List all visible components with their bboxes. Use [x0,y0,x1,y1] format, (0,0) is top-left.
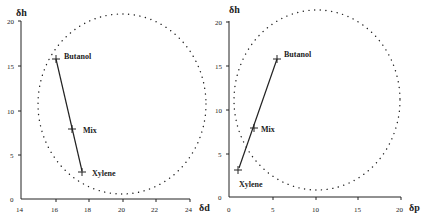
left-mix-label: Mix [83,126,97,135]
right-mix-label: Mix [261,125,275,134]
svg-text:0: 0 [227,206,231,214]
svg-text:0: 0 [218,194,222,202]
left-x-label: δd [199,202,210,213]
svg-text:18: 18 [84,206,92,214]
right-xylene-label: Xylene [239,180,263,189]
svg-text:10: 10 [7,108,15,116]
right-x-label: δp [409,202,420,213]
left-x-ticks: 141618202224 [16,206,193,214]
svg-text:10: 10 [215,107,223,115]
right-y-label: δh [229,4,240,15]
svg-text:14: 14 [16,206,24,214]
right-chart: 20151050 05101520 δh δp Butanol Mix Xyle… [215,4,420,214]
svg-text:24: 24 [185,206,193,214]
svg-text:20: 20 [7,18,15,26]
svg-text:20: 20 [215,19,223,27]
svg-text:0: 0 [10,196,14,204]
right-y-ticks: 20151050 [215,19,223,202]
left-chart: 20151050 141618202224 δh δd Butanol Mix … [7,7,210,214]
left-butanol-label: Butanol [64,52,92,61]
svg-text:15: 15 [7,63,15,71]
svg-text:20: 20 [396,206,404,214]
svg-text:5: 5 [271,206,275,214]
left-y-ticks: 20151050 [7,18,15,204]
left-xylene-label: Xylene [92,169,116,178]
svg-text:22: 22 [151,206,159,214]
svg-text:15: 15 [215,63,223,71]
svg-text:16: 16 [51,206,59,214]
svg-text:20: 20 [118,206,126,214]
left-y-label: δh [16,7,27,18]
left-dotted-circle [38,14,206,194]
left-mix-line [56,59,82,171]
right-mix-line [239,59,277,168]
svg-text:5: 5 [10,152,14,160]
svg-text:15: 15 [354,206,362,214]
svg-text:10: 10 [312,206,320,214]
right-x-ticks: 05101520 [227,206,404,214]
svg-text:5: 5 [218,151,222,159]
right-dotted-circle [234,10,400,190]
charts: 20151050 141618202224 δh δd Butanol Mix … [0,0,426,224]
right-butanol-label: Butanol [284,50,312,59]
